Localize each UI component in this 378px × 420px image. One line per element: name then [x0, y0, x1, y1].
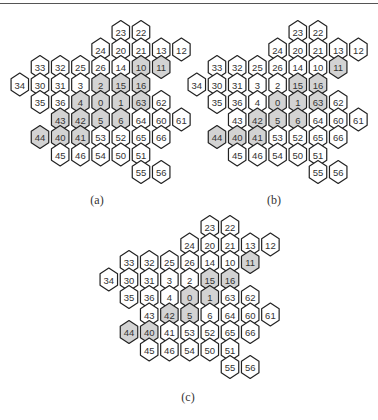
- hex-cell: 55: [221, 356, 238, 379]
- hex-label: 46: [164, 345, 175, 356]
- hex-cell: 50: [201, 338, 218, 361]
- hex-cell: 61: [262, 303, 279, 326]
- hex-label: 42: [164, 310, 175, 321]
- hex-label: 62: [245, 292, 256, 303]
- hex-label: 21: [225, 240, 236, 251]
- hex-label: 56: [245, 362, 256, 373]
- hex-cell: 54: [181, 338, 198, 361]
- hex-label: 44: [124, 327, 135, 338]
- hex-label: 61: [265, 310, 276, 321]
- panel-caption-c: (c): [181, 390, 194, 405]
- hex-label: 36: [144, 292, 155, 303]
- hex-label: 20: [205, 240, 216, 251]
- hex-label: 6: [207, 310, 212, 321]
- hex-label: 50: [205, 345, 216, 356]
- hex-label: 15: [205, 275, 216, 286]
- hex-label: 12: [265, 240, 276, 251]
- hex-cell: 66: [241, 321, 258, 344]
- hex-label: 55: [225, 362, 236, 373]
- hex-cell: 12: [262, 233, 279, 256]
- hex-label: 65: [225, 327, 236, 338]
- hex-label: 1: [207, 292, 212, 303]
- hex-cell: 56: [241, 356, 258, 379]
- hex-cell: 35: [120, 286, 137, 309]
- hex-label: 51: [225, 345, 236, 356]
- hex-label: 10: [225, 257, 236, 268]
- hex-label: 25: [164, 257, 175, 268]
- hex-label: 30: [124, 275, 135, 286]
- hex-label: 32: [144, 257, 155, 268]
- hex-label: 14: [205, 257, 216, 268]
- hex-label: 40: [144, 327, 155, 338]
- hex-label: 34: [104, 275, 115, 286]
- hex-label: 24: [184, 240, 195, 251]
- hex-label: 31: [144, 275, 155, 286]
- hex-label: 16: [225, 275, 236, 286]
- panel-c: 2322242021131233322526141011343031321516…: [0, 0, 378, 420]
- hex-label: 26: [184, 257, 195, 268]
- hex-grid-c: 2322242021131233322526141011343031321516…: [0, 0, 378, 420]
- hex-label: 53: [184, 327, 195, 338]
- hex-label: 3: [167, 275, 172, 286]
- hex-cell: 44: [120, 321, 137, 344]
- hex-cell: 45: [140, 338, 157, 361]
- hex-label: 60: [245, 310, 256, 321]
- hex-label: 22: [225, 222, 236, 233]
- hex-label: 33: [124, 257, 135, 268]
- hex-label: 35: [124, 292, 135, 303]
- hex-cell: 11: [241, 251, 258, 274]
- hex-label: 23: [205, 222, 216, 233]
- hex-label: 43: [144, 310, 155, 321]
- hex-label: 52: [205, 327, 216, 338]
- hex-label: 45: [144, 345, 155, 356]
- hex-cell: 46: [161, 338, 178, 361]
- hex-label: 5: [187, 310, 192, 321]
- hex-label: 64: [225, 310, 236, 321]
- hex-label: 66: [245, 327, 256, 338]
- hex-label: 54: [184, 345, 195, 356]
- hex-label: 2: [187, 275, 192, 286]
- hex-label: 41: [164, 327, 175, 338]
- hex-label: 0: [187, 292, 192, 303]
- hex-label: 4: [167, 292, 172, 303]
- hex-label: 13: [245, 240, 256, 251]
- hex-cell: 34: [100, 268, 117, 291]
- hex-label: 63: [225, 292, 236, 303]
- hex-label: 11: [245, 257, 255, 268]
